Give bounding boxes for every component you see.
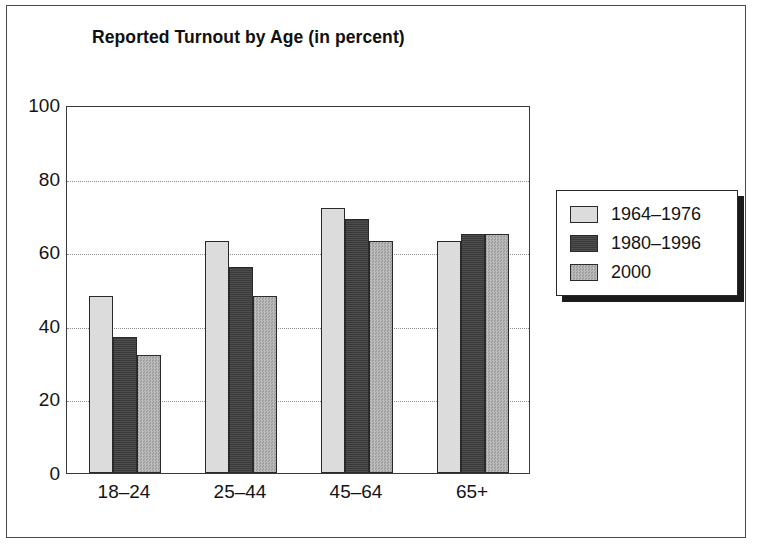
bar[interactable] [321,208,345,473]
y-tick-label: 20 [2,389,60,411]
bar[interactable] [89,296,113,473]
bar-group [299,107,415,473]
chart-page: Reported Turnout by Age (in percent) 020… [0,0,759,549]
bar-group [67,107,183,473]
bar[interactable] [253,296,277,473]
x-tick-label: 65+ [456,481,488,503]
bar[interactable] [369,241,393,473]
bar[interactable] [113,337,137,473]
bar[interactable] [229,267,253,473]
x-tick-label: 18–24 [98,481,151,503]
y-axis: 020406080100 [0,0,60,549]
x-tick-label: 45–64 [330,481,383,503]
legend-item[interactable]: 1980–1996 [570,229,737,258]
bar-series-layer [67,107,529,473]
x-tick-label: 25–44 [214,481,267,503]
bar[interactable] [205,241,229,473]
bar[interactable] [137,355,161,473]
y-tick-label: 0 [2,463,60,485]
chart-title: Reported Turnout by Age (in percent) [92,27,405,48]
legend-item[interactable]: 2000 [570,258,737,287]
legend-item-label: 1964–1976 [611,204,701,225]
legend-swatch-icon [570,235,598,252]
legend-item-label: 1980–1996 [611,233,701,254]
plot-area [66,106,530,474]
legend-item-label: 2000 [611,262,651,283]
y-tick-label: 40 [2,316,60,338]
legend-swatch-icon [570,206,598,223]
y-tick-label: 100 [2,95,60,117]
bar[interactable] [345,219,369,473]
bar-group [183,107,299,473]
x-axis: 18–2425–4445–6465+ [66,481,530,515]
bar[interactable] [437,241,461,473]
legend-swatch-icon [570,264,598,281]
legend-item[interactable]: 1964–1976 [570,200,737,229]
bar[interactable] [461,234,485,473]
bar[interactable] [485,234,509,473]
bar-group [415,107,531,473]
chart-legend: 1964–19761980–19962000 [556,190,738,296]
y-tick-label: 60 [2,242,60,264]
y-tick-label: 80 [2,169,60,191]
